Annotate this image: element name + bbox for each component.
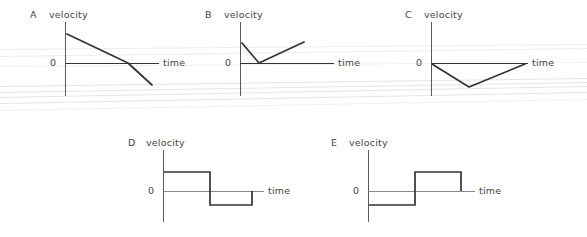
graph-a-curve: [67, 34, 152, 85]
graph-e-origin-label: 0: [353, 186, 359, 196]
graph-b-letter: B: [205, 10, 212, 20]
graph-c-plot: [405, 6, 575, 106]
graph-c: C velocity 0 time: [405, 6, 575, 106]
figure-canvas: A velocity 0 time B velocity 0 time C ve…: [0, 0, 587, 237]
graph-d: D velocity 0 time: [128, 135, 303, 230]
graph-d-curve: [164, 172, 252, 205]
graph-b-origin-label: 0: [225, 58, 231, 68]
graph-e-x-axis-label: time: [479, 186, 501, 196]
graph-a-origin-label: 0: [50, 58, 56, 68]
graph-b-curve: [242, 42, 304, 63]
graph-b: B velocity 0 time: [205, 6, 375, 106]
graph-e-plot: [331, 135, 511, 230]
graph-b-x-axis-label: time: [338, 58, 360, 68]
graph-a-x-axis-label: time: [163, 58, 185, 68]
graph-e-y-axis-label: velocity: [349, 138, 388, 148]
graph-d-origin-label: 0: [148, 186, 154, 196]
graph-a-plot: [30, 6, 200, 106]
graph-e: E velocity 0 time: [331, 135, 511, 230]
graph-d-y-axis-label: velocity: [146, 138, 185, 148]
graph-d-letter: D: [128, 138, 136, 148]
graph-e-curve: [369, 172, 461, 205]
graph-a-y-axis-label: velocity: [49, 10, 88, 20]
graph-e-letter: E: [331, 138, 337, 148]
graph-d-plot: [128, 135, 303, 230]
graph-a: A velocity 0 time: [30, 6, 200, 106]
graph-c-curve: [432, 64, 525, 87]
graph-c-origin-label: 0: [416, 58, 422, 68]
graph-b-plot: [205, 6, 375, 106]
graph-c-x-axis-label: time: [532, 58, 554, 68]
graph-d-x-axis-label: time: [268, 186, 290, 196]
graph-b-y-axis-label: velocity: [224, 10, 263, 20]
graph-c-y-axis-label: velocity: [424, 10, 463, 20]
graph-a-letter: A: [30, 10, 37, 20]
graph-c-letter: C: [405, 10, 412, 20]
